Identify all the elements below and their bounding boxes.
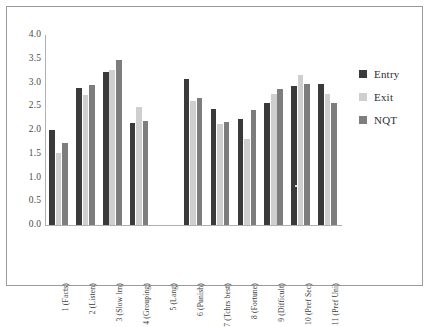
legend-item: Entry	[359, 65, 421, 83]
x-axis-tick-label: 7 (Tchrs best)	[223, 283, 232, 327]
bar-nqt	[304, 84, 310, 225]
bar-nqt	[143, 121, 149, 225]
x-axis-tick-label: 1 (Facts)	[61, 283, 70, 311]
bar-nqt	[89, 85, 95, 225]
bar-nqt	[277, 89, 283, 225]
legend-swatch-icon	[359, 116, 367, 124]
bar-group	[76, 35, 95, 225]
bar-nqt	[62, 143, 68, 225]
x-axis-tick-labels: 1 (Facts)2 (Listen)3 (Slow lrn)4 (Groupi…	[45, 227, 341, 285]
bar-group	[49, 35, 68, 225]
bar-entry	[318, 84, 324, 225]
bar-group	[157, 35, 176, 225]
x-axis-tick-label: 8 (Fortune)	[250, 283, 259, 319]
chart-frame: 4.03.53.02.52.01.51.00.50.0 1 (Facts)2 (…	[6, 6, 423, 286]
legend-swatch-icon	[359, 93, 367, 101]
bar-group	[264, 35, 283, 225]
bar-group	[130, 35, 149, 225]
bar-entry	[238, 119, 244, 225]
bar-nqt	[197, 98, 203, 225]
bar-group	[211, 35, 230, 225]
bar-entry	[291, 86, 297, 225]
bar-exit	[217, 124, 223, 225]
y-axis-tick-label: 0.0	[11, 219, 41, 229]
bar-exit	[56, 153, 62, 225]
x-axis-tick-label: 5 (Lang)	[169, 283, 178, 311]
bar-exit	[109, 70, 115, 225]
bar-entry	[184, 79, 190, 225]
chart-legend: EntryExitNQT	[359, 65, 421, 134]
legend-item: Exit	[359, 88, 421, 106]
bar-nqt	[331, 103, 337, 225]
y-axis-tick-label: 2.5	[11, 100, 41, 110]
plot-area	[45, 35, 341, 225]
bar-entry	[49, 130, 55, 225]
x-axis-tick-label: 6 (Punish)	[196, 283, 205, 316]
y-axis-tick-label: 3.5	[11, 53, 41, 63]
bar-exit	[325, 94, 331, 225]
legend-label: Exit	[374, 91, 393, 103]
bar-entry	[103, 72, 109, 225]
x-axis-tick-label: 2 (Listen)	[88, 283, 97, 314]
y-axis-tick-label: 0.5	[11, 195, 41, 205]
bar-entry	[76, 88, 82, 225]
y-axis-tick-label: 3.0	[11, 77, 41, 87]
bar-entry	[211, 109, 217, 225]
bar-group	[318, 35, 337, 225]
bar-exit	[190, 101, 196, 225]
y-axis-tick-label: 2.0	[11, 124, 41, 134]
legend-label: NQT	[374, 114, 397, 126]
bar-exit	[244, 139, 250, 225]
bar-entry	[130, 123, 136, 225]
bar-exit	[298, 75, 304, 225]
bar-nqt	[251, 110, 257, 225]
bar-group	[238, 35, 257, 225]
y-axis-tick-label: 1.5	[11, 148, 41, 158]
bar-exit	[271, 94, 277, 225]
bar-nqt	[116, 60, 122, 225]
x-axis-tick-label: 4 (Grouping)	[142, 283, 151, 325]
y-axis-tick-label: 1.0	[11, 172, 41, 182]
scan-artifact-speck	[295, 185, 297, 187]
bar-exit	[83, 95, 89, 225]
bar-entry	[264, 103, 270, 225]
y-axis-tick-labels: 4.03.53.02.52.01.51.00.50.0	[9, 35, 41, 225]
x-axis-line	[45, 225, 342, 226]
x-axis-tick-label: 10 (Pref Sec)	[304, 283, 313, 325]
x-axis-tick-label: 11 (Pref Uni)	[331, 283, 340, 325]
y-axis-tick-label: 4.0	[11, 29, 41, 39]
legend-label: Entry	[374, 68, 399, 80]
legend-swatch-icon	[359, 70, 367, 78]
legend-item: NQT	[359, 111, 421, 129]
bar-group	[184, 35, 203, 225]
bar-group	[103, 35, 122, 225]
x-axis-tick-label: 3 (Slow lrn)	[115, 283, 124, 322]
bar-exit	[136, 107, 142, 225]
bar-nqt	[224, 122, 230, 225]
bar-group	[291, 35, 310, 225]
x-axis-tick-label: 9 (Difficult)	[277, 283, 286, 322]
